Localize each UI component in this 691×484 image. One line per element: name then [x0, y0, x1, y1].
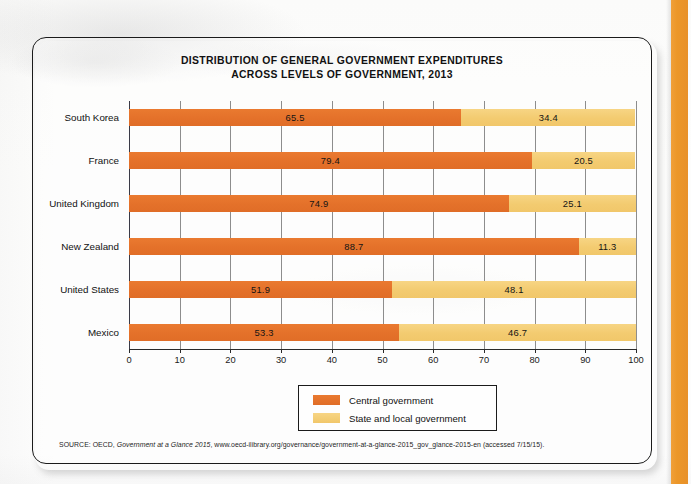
bar-value-local: 48.1	[505, 284, 524, 295]
bar-value-local: 34.4	[539, 112, 558, 123]
bar-value-central: 65.5	[286, 112, 305, 123]
bar-value-local: 46.7	[508, 327, 527, 338]
x-tick-label-60: 60	[428, 355, 438, 365]
bar-segment-central: 65.5	[129, 109, 461, 126]
category-label-united-kingdom: United Kingdom	[0, 195, 129, 212]
x-tick-label-80: 80	[529, 355, 539, 365]
x-tick-60	[433, 349, 434, 353]
figure-card: DISTRIBUTION OF GENERAL GOVERNMENT EXPEN…	[32, 37, 652, 464]
bar-row: New Zealand88.711.3	[129, 238, 636, 255]
bar-value-central: 53.3	[255, 327, 274, 338]
x-tick-100	[636, 349, 637, 353]
gridline-30	[281, 101, 282, 349]
gridline-60	[433, 101, 434, 349]
bar-segment-central: 51.9	[129, 281, 392, 298]
category-label-united-states: United States	[0, 281, 129, 298]
category-label-mexico: Mexico	[0, 324, 129, 341]
bar-value-central: 51.9	[251, 284, 270, 295]
legend-item-central: Central government	[313, 392, 496, 408]
bar-segment-central: 88.7	[129, 238, 579, 255]
x-tick-label-50: 50	[377, 355, 387, 365]
bar-value-central: 88.7	[344, 241, 363, 252]
gridline-40	[332, 101, 333, 349]
bar-segment-local: 25.1	[509, 195, 636, 212]
chart-title-line-1: DISTRIBUTION OF GENERAL GOVERNMENT EXPEN…	[33, 54, 651, 68]
category-label-new-zealand: New Zealand	[0, 238, 129, 255]
gridline-20	[230, 101, 231, 349]
bar-segment-central: 79.4	[129, 152, 532, 169]
x-tick-label-90: 90	[580, 355, 590, 365]
source-publication-title: Government at a Glance 2015	[117, 441, 211, 448]
legend-label-central: Central government	[349, 395, 433, 406]
bar-segment-central: 74.9	[129, 195, 509, 212]
source-note: SOURCE: OECD, Government at a Glance 201…	[59, 441, 635, 448]
gridline-0	[129, 101, 130, 349]
gridline-80	[535, 101, 536, 349]
bar-segment-local: 34.4	[461, 109, 635, 126]
bar-row: Mexico53.346.7	[129, 324, 636, 341]
x-tick-90	[585, 349, 586, 353]
x-tick-20	[230, 349, 231, 353]
legend-swatch-local	[313, 413, 340, 423]
x-tick-80	[535, 349, 536, 353]
bar-value-central: 79.4	[321, 155, 340, 166]
legend-swatch-central	[313, 395, 340, 405]
bar-row: France79.420.5	[129, 152, 636, 169]
legend-item-local: State and local government	[313, 410, 496, 426]
chart-title: DISTRIBUTION OF GENERAL GOVERNMENT EXPEN…	[33, 54, 651, 81]
bar-value-local: 20.5	[574, 155, 593, 166]
x-tick-label-0: 0	[126, 355, 131, 365]
legend-label-local: State and local government	[349, 413, 466, 424]
x-tick-0	[129, 349, 130, 353]
x-tick-label-100: 100	[628, 355, 644, 365]
x-tick-10	[180, 349, 181, 353]
x-tick-label-10: 10	[175, 355, 185, 365]
chart-plot-area: South Korea65.534.4France79.420.5United …	[129, 101, 636, 349]
bar-segment-central: 53.3	[129, 324, 399, 341]
bar-segment-local: 20.5	[532, 152, 636, 169]
source-suffix: , www.oecd-ilibrary.org/governance/gover…	[210, 441, 544, 448]
bar-row: United Kingdom74.925.1	[129, 195, 636, 212]
x-tick-label-40: 40	[327, 355, 337, 365]
source-prefix: SOURCE: OECD,	[59, 441, 117, 448]
bar-value-central: 74.9	[309, 198, 328, 209]
x-tick-70	[484, 349, 485, 353]
gridline-70	[484, 101, 485, 349]
category-label-france: France	[0, 152, 129, 169]
x-tick-40	[332, 349, 333, 353]
bar-row: United States51.948.1	[129, 281, 636, 298]
x-tick-label-70: 70	[479, 355, 489, 365]
chart-title-line-2: ACROSS LEVELS OF GOVERNMENT, 2013	[33, 68, 651, 82]
page-edge-orange-tab	[671, 0, 688, 484]
gridline-10	[180, 101, 181, 349]
bar-segment-local: 48.1	[392, 281, 636, 298]
category-label-south-korea: South Korea	[0, 109, 129, 126]
x-tick-30	[281, 349, 282, 353]
gridline-100	[636, 101, 637, 349]
gridline-50	[383, 101, 384, 349]
gridline-90	[585, 101, 586, 349]
bar-row: South Korea65.534.4	[129, 109, 636, 126]
x-tick-label-30: 30	[276, 355, 286, 365]
bar-segment-local: 11.3	[579, 238, 636, 255]
bar-value-local: 25.1	[563, 198, 582, 209]
x-tick-50	[383, 349, 384, 353]
bar-value-local: 11.3	[598, 241, 616, 252]
chart-legend: Central governmentState and local govern…	[298, 385, 497, 431]
x-tick-label-20: 20	[225, 355, 235, 365]
bar-segment-local: 46.7	[399, 324, 636, 341]
